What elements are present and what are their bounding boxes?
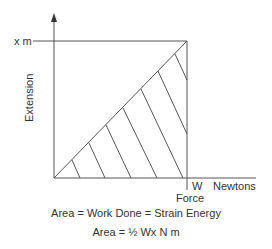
- equation-area: Area = ½ Wx N m: [0, 226, 272, 238]
- x-axis-label: Force: [176, 192, 204, 204]
- shaded-area-hatching: [72, 54, 187, 178]
- y-tick-label: x m: [14, 35, 32, 47]
- x-axis-unit: Newtons: [213, 180, 256, 192]
- equation-work-done: Area = Work Done = Strain Energy: [0, 207, 272, 219]
- y-axis-label: Extension: [23, 74, 35, 122]
- x-tick-label: W: [192, 180, 202, 192]
- y-axis-arrow-icon: [51, 13, 57, 22]
- load-extension-line: [54, 41, 187, 178]
